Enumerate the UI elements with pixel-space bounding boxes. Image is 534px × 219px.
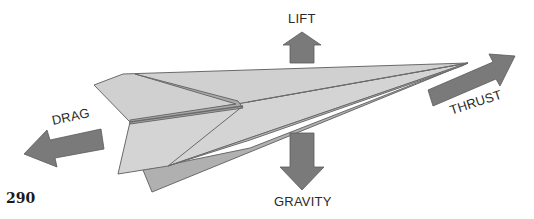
page-number: 290 bbox=[6, 190, 35, 206]
gravity-arrow-icon bbox=[280, 133, 324, 190]
lift-label: LIFT bbox=[288, 11, 316, 26]
lift-arrow-icon bbox=[283, 32, 321, 63]
force-diagram: LIFT GRAVITY DRAG THRUST 290 bbox=[0, 0, 534, 219]
drag-arrow-icon bbox=[24, 129, 104, 167]
gravity-label: GRAVITY bbox=[274, 194, 332, 209]
paper-airplane bbox=[94, 63, 468, 192]
